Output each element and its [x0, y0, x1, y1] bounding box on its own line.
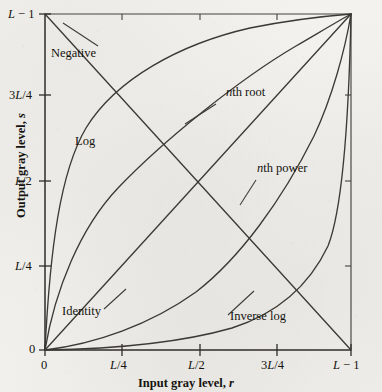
y-axis-title: Output gray level, s	[14, 106, 29, 226]
x-tick-label-L-1: L − 1	[333, 359, 360, 372]
x-tick-label-L-4: L/4	[110, 359, 127, 372]
label-leader-lines	[63, 23, 256, 315]
y-tick-label-L-4: L/4	[15, 260, 32, 273]
y-tick-label-L-1: L − 1	[8, 8, 35, 21]
x-tick-label-L-2: L/2	[188, 359, 205, 372]
x-tick-label-3L-4: 3L/4	[261, 359, 284, 372]
leader-identity	[104, 289, 126, 309]
y-tick-label-3L-4: 3L/4	[9, 89, 32, 102]
curve-label-inverse-log: Inverse log	[230, 310, 286, 323]
x-tick-label-0: 0	[41, 359, 47, 372]
y-tick-label-0: 0	[29, 343, 35, 356]
curve-label-nth-power: nth power	[257, 162, 307, 175]
curve-label-log: Log	[75, 135, 95, 148]
x-axis-title: Input gray level, r	[138, 377, 234, 390]
curve-label-negative: Negative	[51, 47, 96, 60]
leader-nth-power	[240, 180, 256, 205]
curve-label-identity: Identity	[62, 305, 101, 318]
curve-label-nth-root: nth root	[226, 86, 265, 99]
leader-negative	[63, 23, 98, 46]
leader-nth-root	[185, 104, 216, 124]
